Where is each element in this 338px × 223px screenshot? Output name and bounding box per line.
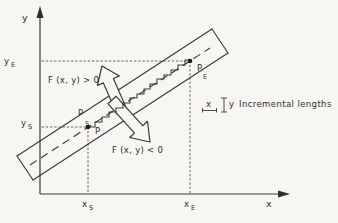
region-label-positive: F (x, y) > 0 [48, 75, 99, 85]
tick-xS-sub: S [89, 204, 93, 212]
y-axis-label: y [22, 12, 28, 23]
legend-incremental-lengths: x y Incremental lengths [203, 98, 332, 113]
point-start-pixel-label: P [95, 126, 100, 136]
y-axis-arrow-icon [37, 6, 44, 18]
tick-xE-base: x [184, 199, 189, 209]
legend-dy-symbol: y [229, 99, 234, 109]
band-left-cap [17, 156, 33, 180]
tick-xE-sub: E [191, 204, 195, 212]
tick-yS-sub: S [28, 123, 32, 131]
tick-yS-base: y [21, 118, 26, 128]
region-label-negative: F (x, y) < 0 [112, 145, 163, 155]
point-start-label-sub: S [85, 120, 89, 128]
point-start-label-base: P [78, 108, 83, 118]
x-axis-arrow-icon [278, 191, 290, 198]
dy-extent-ibeam-icon [221, 98, 227, 112]
x-axis-label: x [266, 198, 272, 209]
region-arrows [97, 66, 150, 142]
point-end-label-sub: E [203, 73, 207, 81]
diagram-canvas: y x y E y S x S x E P S P P E F (x, y) >… [0, 0, 338, 223]
band-right-cap [212, 29, 228, 53]
figure-incremental-line-diagram: y x y E y S x S x E P S P P E F (x, y) >… [0, 0, 338, 223]
tick-yE-sub: E [11, 61, 15, 69]
tick-yE-base: y [4, 56, 9, 66]
legend-dx-symbol: x [206, 99, 211, 109]
point-end-label-base: P [197, 63, 202, 73]
point-end-dot [188, 59, 193, 64]
legend-caption: Incremental lengths [239, 99, 332, 109]
tick-xS-base: x [82, 199, 87, 209]
